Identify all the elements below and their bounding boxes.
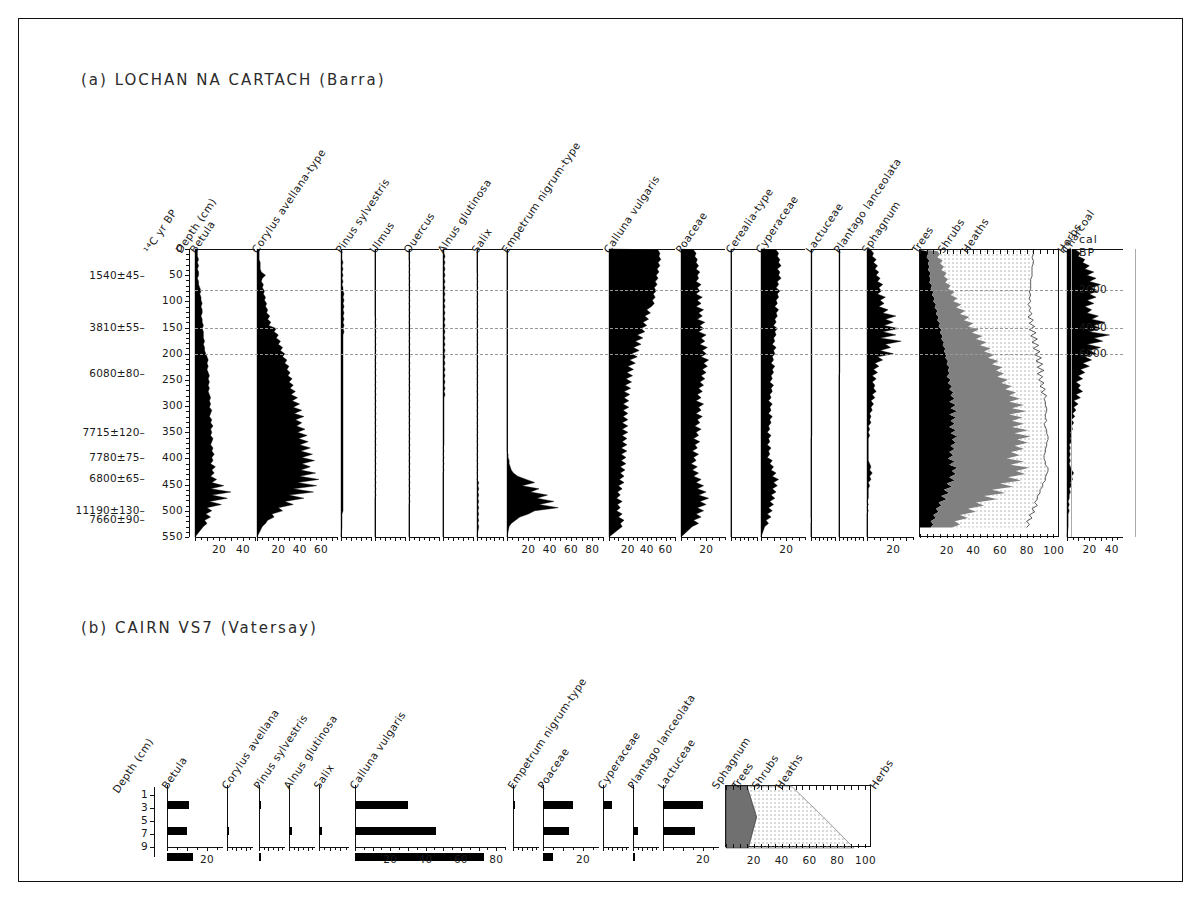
b-axis-tick bbox=[683, 847, 684, 851]
b-axis-tick-label: 80 bbox=[486, 853, 506, 865]
b-axis-tick bbox=[324, 847, 325, 850]
taxon-axis-tick bbox=[225, 537, 226, 540]
taxon-axis-tick bbox=[305, 537, 306, 540]
b-summary-tick bbox=[858, 844, 859, 848]
depth-minor-tick bbox=[186, 369, 189, 370]
b-bar bbox=[355, 827, 436, 835]
b-summary-tick-top bbox=[844, 786, 845, 790]
summary-axis-tick bbox=[947, 534, 948, 538]
taxon-axis-tick bbox=[603, 537, 604, 541]
b-summary-tick-label: 100 bbox=[855, 854, 875, 866]
summary-axis-tick bbox=[1007, 534, 1008, 538]
calbp-tick-label: 4000 bbox=[1079, 321, 1107, 333]
depth-tick bbox=[185, 275, 189, 276]
b-summary-tick bbox=[761, 844, 762, 848]
taxon-axis-tick bbox=[534, 537, 535, 540]
taxon-axis-tick bbox=[321, 537, 322, 541]
b-depth-tick-label: 3 bbox=[130, 801, 148, 813]
b-axis-tick bbox=[417, 847, 418, 850]
b-summary-tick-label: 20 bbox=[744, 854, 764, 866]
taxon-axis-tick bbox=[609, 537, 610, 541]
depth-minor-tick bbox=[186, 364, 189, 365]
taxon-axis-tick bbox=[289, 537, 290, 541]
b-summary-tick bbox=[830, 844, 831, 848]
depth-tick-label: 150 bbox=[149, 321, 183, 333]
b-taxon-bottom-axis bbox=[543, 847, 599, 848]
taxon-axis-tick bbox=[761, 537, 762, 541]
taxon-axis-tick bbox=[859, 537, 860, 540]
b-depth-axis-label: Depth (cm) bbox=[110, 736, 155, 795]
b-summary-tick bbox=[740, 844, 741, 848]
b-summary-tick bbox=[837, 844, 838, 848]
b-axis-tick bbox=[647, 847, 648, 850]
taxon-axis-tick-label: 40 bbox=[637, 543, 657, 555]
calbp-tick-label: 2000 bbox=[1079, 283, 1107, 295]
taxon-axis-tick bbox=[332, 537, 333, 541]
taxon-axis-tick bbox=[1078, 537, 1079, 541]
taxon-axis-tick-label: 20 bbox=[268, 543, 288, 555]
depth-tick-label: 500 bbox=[149, 504, 183, 516]
summary-axis-tick-top bbox=[973, 250, 974, 254]
depth-minor-tick bbox=[186, 495, 189, 496]
taxon-axis-tick-label: 40 bbox=[1102, 543, 1122, 555]
taxon-axis-tick bbox=[443, 537, 444, 541]
b-bar bbox=[663, 801, 703, 809]
summary-axis-tick-top bbox=[1007, 250, 1008, 254]
c14-date-label: 1540±45– bbox=[59, 269, 145, 281]
c14-date-label: 7660±90– bbox=[59, 513, 145, 525]
taxon-axis-tick bbox=[523, 537, 524, 540]
b-axis-tick bbox=[603, 847, 604, 851]
taxon-axis-tick bbox=[681, 537, 682, 541]
summary-axis-tick-top bbox=[1040, 250, 1041, 254]
taxon-axis-tick bbox=[366, 537, 367, 540]
b-bar bbox=[633, 853, 635, 861]
b-axis-tick bbox=[713, 847, 714, 850]
summary-axis-tick bbox=[940, 534, 941, 538]
b-axis-tick-label: 20 bbox=[693, 853, 713, 865]
depth-minor-tick bbox=[186, 448, 189, 449]
depth-tick bbox=[185, 328, 189, 329]
taxon-axis-tick bbox=[439, 537, 440, 541]
b-taxon-panel-lactuceae: 20 bbox=[663, 785, 719, 847]
taxon-axis-tick bbox=[1073, 537, 1074, 540]
taxon-panel-corylus-avellana-type: 204060 bbox=[257, 249, 337, 537]
depth-minor-tick bbox=[186, 474, 189, 475]
depth-minor-tick bbox=[186, 443, 189, 444]
summary-axis-tick bbox=[1027, 534, 1028, 538]
b-summary-tick bbox=[802, 844, 803, 848]
b-axis-tick bbox=[250, 847, 251, 850]
summary-axis-tick bbox=[987, 534, 988, 538]
taxon-axis-tick bbox=[195, 537, 196, 541]
taxon-axis-tick bbox=[651, 537, 652, 540]
depth-minor-tick bbox=[186, 516, 189, 517]
taxon-axis-tick bbox=[201, 537, 202, 540]
summary-axis-tick bbox=[953, 534, 954, 538]
taxon-axis-tick bbox=[1106, 537, 1107, 540]
taxon-axis-tick bbox=[786, 537, 787, 541]
taxon-axis-tick bbox=[477, 537, 478, 541]
depth-tick-label: 200 bbox=[149, 347, 183, 359]
depth-minor-tick bbox=[186, 307, 189, 308]
summary-axis-tick bbox=[927, 534, 928, 538]
b-bar bbox=[319, 827, 322, 835]
taxon-axis-tick bbox=[614, 537, 615, 540]
b-axis-tick bbox=[532, 847, 533, 851]
depth-minor-tick bbox=[186, 270, 189, 271]
taxon-axis-tick bbox=[434, 537, 435, 540]
taxon-axis-tick-label: 20 bbox=[776, 543, 796, 555]
taxon-axis-tick bbox=[642, 537, 643, 540]
depth-tick-label: 450 bbox=[149, 478, 183, 490]
summary-axis-tick bbox=[967, 534, 968, 538]
taxon-panel-pinus-sylvestris bbox=[341, 249, 371, 537]
taxon-axis-tick bbox=[647, 537, 648, 541]
taxon-axis-tick bbox=[380, 537, 381, 540]
depth-tick-label: 50 bbox=[149, 268, 183, 280]
taxon-axis-tick-label: 60 bbox=[656, 543, 676, 555]
taxon-axis-tick bbox=[827, 537, 828, 541]
b-axis-tick bbox=[656, 847, 657, 850]
b-taxon-panel-empetrum-nigrum-type bbox=[513, 785, 539, 847]
b-summary-tick bbox=[775, 844, 776, 848]
taxon-axis-tick-label: 20 bbox=[1079, 543, 1099, 555]
depth-gridline bbox=[195, 328, 1123, 329]
depth-minor-tick bbox=[186, 343, 189, 344]
